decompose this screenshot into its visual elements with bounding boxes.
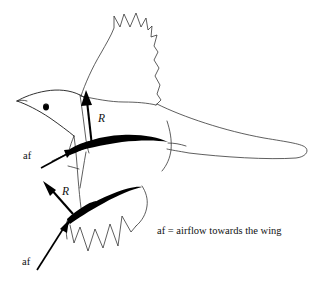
near-wing-airfoil (52, 121, 186, 171)
vector-af-lower-wing (37, 220, 69, 270)
lower-wing-airfoil (66, 186, 147, 251)
label-vector-r-upper: R (97, 112, 105, 124)
far-wing-raised (81, 13, 161, 105)
caption-airflow-legend: af = airflow towards the wing (157, 225, 282, 236)
bird-head (17, 90, 87, 136)
label-airflow-lower: af (22, 256, 31, 267)
label-airflow-upper: af (23, 150, 32, 161)
vector-af-upper-wing (41, 149, 75, 168)
vector-r-upper-wing (81, 90, 92, 146)
bird-airflow-diagram: R R af af af = airflow towards the wing (0, 0, 319, 281)
bird-tail (157, 104, 307, 159)
diagram-canvas: R R af af af = airflow towards the wing (0, 0, 319, 281)
label-vector-r-lower: R (61, 185, 69, 197)
